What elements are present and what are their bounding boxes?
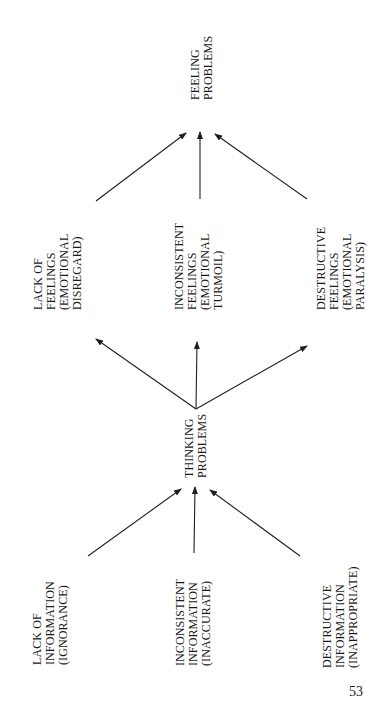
node-thinking-problems: THINKING PROBLEMS	[182, 414, 209, 478]
node-line: INFORMATION	[43, 581, 57, 665]
node-line: (IGNORANCE)	[56, 585, 70, 665]
node-destructive-information: DESTRUCTIVE INFORMATION (INAPPROPRIATE)	[320, 566, 360, 668]
node-line: (INACCURATE)	[199, 581, 213, 666]
node-feeling-problems: FEELING PROBLEMS	[188, 36, 215, 100]
node-line: (EMOTIONAL	[198, 234, 212, 310]
node-line: INFORMATION	[333, 584, 347, 668]
node-line: FEELINGS	[185, 253, 199, 310]
node-line: (EMOTIONAL	[57, 234, 71, 310]
node-lack-of-information: LACK OF INFORMATION (IGNORANCE)	[30, 581, 70, 665]
node-line: PROBLEMS	[201, 36, 215, 100]
node-line: INCONSISTENT	[172, 222, 186, 310]
node-destructive-feelings: DESTRUCTIVE FEELINGS (EMOTIONAL PARALYSI…	[314, 227, 367, 310]
node-line: FEELINGS	[44, 253, 58, 310]
node-lack-of-feelings: LACK OF FEELINGS (EMOTIONAL DISREGARD)	[31, 234, 84, 310]
node-line: FEELINGS	[327, 253, 341, 310]
node-line: LACK OF	[31, 258, 45, 310]
node-line: (EMOTIONAL	[340, 234, 354, 310]
arrow-destructive-feelings-to-feeling-problems	[215, 134, 307, 199]
node-line: TURMOIL)	[211, 251, 225, 310]
arrow-lack-info-to-thinking	[88, 489, 181, 556]
arrow-lack-feelings-to-feeling-problems	[96, 133, 186, 201]
node-line: (INAPPROPRIATE)	[346, 566, 360, 668]
arrow-destructive-info-to-thinking	[210, 490, 300, 556]
node-line: LACK OF	[30, 613, 44, 665]
arrow-thinking-to-lack-feelings	[96, 339, 196, 409]
node-line: INCONSISTENT	[173, 578, 187, 666]
flow-diagram: FEELING PROBLEMS LACK OF FEELINGS (EMOTI…	[0, 0, 384, 728]
node-line: DESTRUCTIVE	[314, 227, 328, 310]
node-line: PROBLEMS	[195, 414, 209, 478]
arrow-inconsistent-info-to-thinking	[194, 487, 195, 553]
node-inconsistent-information: INCONSISTENT INFORMATION (INACCURATE)	[173, 578, 213, 666]
arrow-thinking-to-destructive-feelings	[196, 346, 307, 409]
node-line: DISREGARD)	[70, 236, 84, 310]
page-number: 53	[349, 684, 363, 700]
node-inconsistent-feelings: INCONSISTENT FEELINGS (EMOTIONAL TURMOIL…	[172, 222, 225, 310]
arrow-thinking-to-inconsistent-feelings	[196, 342, 197, 409]
node-line: DESTRUCTIVE	[320, 585, 334, 668]
node-line: PARALYSIS)	[353, 242, 367, 310]
node-line: INFORMATION	[186, 582, 200, 666]
